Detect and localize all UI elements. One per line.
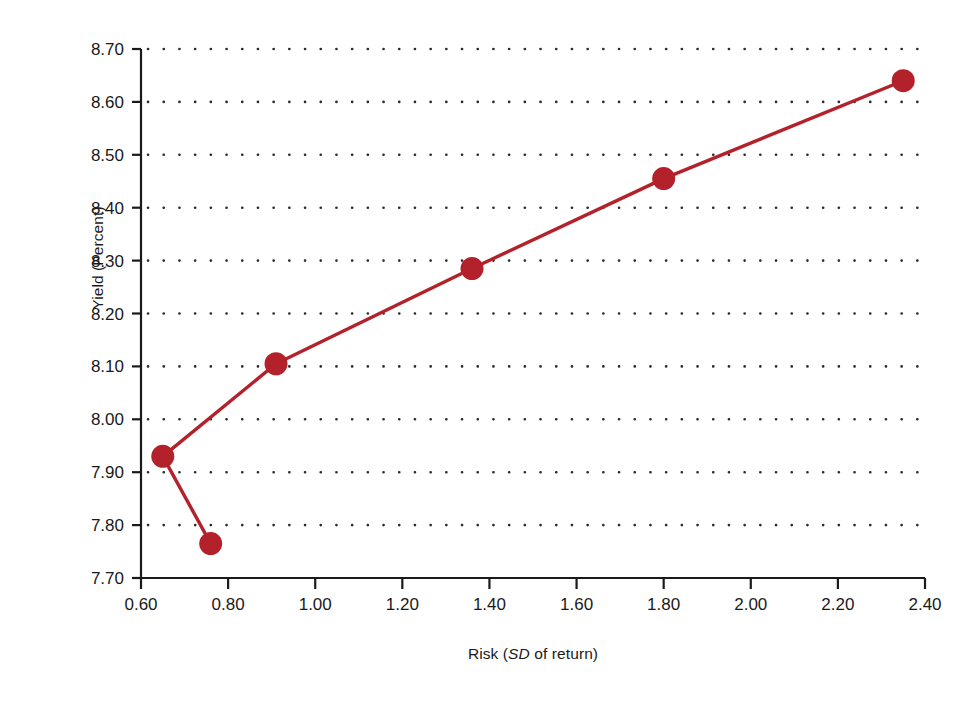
data-point-marker xyxy=(265,352,288,375)
data-series xyxy=(151,69,914,555)
axis-tick-marks xyxy=(132,49,925,589)
data-point-marker xyxy=(461,257,484,280)
data-point-marker xyxy=(151,445,174,468)
series-line xyxy=(163,81,903,544)
data-point-marker xyxy=(199,532,222,555)
data-point-marker xyxy=(652,167,675,190)
data-point-marker xyxy=(892,69,915,92)
chart-figure: Yield (Percent) Risk (SD of return) 7.70… xyxy=(0,0,969,714)
plot-area xyxy=(0,0,969,714)
